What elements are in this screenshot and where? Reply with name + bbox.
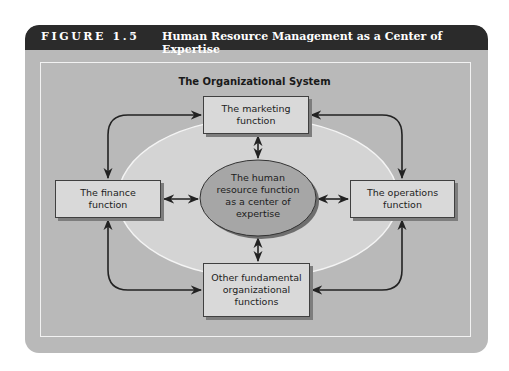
marketing-line-2: function — [221, 115, 290, 127]
finance-line-1: The finance — [80, 187, 136, 199]
finance-function-box: The finance function — [55, 180, 161, 218]
operations-line-2: function — [367, 199, 438, 211]
center-line-2: resource function — [200, 184, 316, 196]
hr-function-label: The human resource function as a center … — [200, 172, 316, 220]
marketing-line-1: The marketing — [221, 103, 290, 115]
center-line-1: The human — [200, 172, 316, 184]
center-line-4: expertise — [200, 208, 316, 220]
operations-line-1: The operations — [367, 187, 438, 199]
other-line-1: Other fundamental — [211, 272, 302, 284]
other-functions-box: Other fundamental organizational functio… — [203, 263, 310, 317]
marketing-function-box: The marketing function — [203, 96, 309, 134]
system-title: The Organizational System — [0, 76, 509, 87]
center-line-3: as a center of — [200, 196, 316, 208]
operations-function-box: The operations function — [350, 180, 455, 218]
finance-line-2: function — [80, 199, 136, 211]
other-line-3: functions — [211, 296, 302, 308]
other-line-2: organizational — [211, 284, 302, 296]
